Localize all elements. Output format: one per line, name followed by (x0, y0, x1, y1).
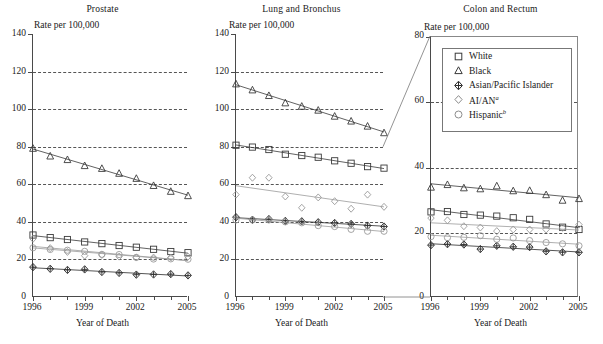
x-axis-tick-minor (546, 296, 547, 300)
y-axis-tick (426, 37, 431, 38)
gridline (33, 147, 187, 148)
y-axis-tick-label: 0 (0, 291, 26, 301)
diamond-cross-marker-icon (64, 266, 71, 273)
diamond-marker-icon (299, 204, 305, 211)
legend-label: AI/ANa (469, 94, 499, 106)
y-axis-tick-label: 60 (0, 178, 26, 188)
diamond-marker-icon (461, 223, 467, 230)
gridline (33, 259, 187, 260)
triangle-marker-icon (428, 184, 435, 191)
diamond-marker-icon (364, 191, 370, 198)
trend-line (33, 149, 188, 195)
diamond-cross-marker-icon (510, 243, 517, 250)
y-axis-tick (28, 147, 33, 148)
diamond-marker-icon (266, 174, 272, 181)
x-axis-tick-label: 1996 (414, 302, 446, 312)
y-axis-tick-label: 120 (201, 66, 229, 76)
y-axis-tick (28, 259, 33, 260)
square-marker-icon (150, 246, 156, 252)
legend-item-black[interactable]: Black (443, 64, 571, 79)
diamond-cross-marker-icon (381, 223, 388, 230)
circle-marker-icon (64, 247, 70, 253)
diamond-marker-icon (99, 251, 105, 258)
triangle-marker-icon (64, 156, 71, 163)
square-open-marker-icon (451, 49, 466, 63)
diamond-cross-marker-icon (526, 243, 533, 250)
triangle-marker-icon (559, 197, 566, 204)
x-axis-title: Year of Death (205, 318, 398, 328)
x-axis-tick-minor (318, 296, 319, 300)
x-axis-tick-label: 1996 (16, 302, 48, 312)
diamond-cross-marker-icon (460, 241, 467, 248)
legend-item-white[interactable]: White (443, 49, 571, 64)
y-axis-tick (28, 222, 33, 223)
x-axis-tick-label: 2002 (513, 302, 545, 312)
x-axis-tick-minor (351, 296, 352, 300)
square-marker-icon (543, 221, 549, 227)
x-axis-tick-minor (154, 296, 155, 300)
trend-line (236, 186, 384, 207)
legend-item-asian-pacific-islander[interactable]: Asian/Pacific Islander (443, 78, 571, 93)
panel-title: Prostate (0, 4, 205, 14)
legend-item-ai-an[interactable]: AI/ANa (443, 93, 571, 108)
diamond-marker-icon (249, 174, 255, 181)
triangle-marker-icon (81, 162, 88, 169)
square-marker-icon (64, 236, 70, 242)
x-axis-title: Year of Death (398, 318, 603, 328)
diamond-marker-icon (348, 205, 354, 212)
trend-line (431, 184, 579, 198)
triangle-marker-icon (510, 187, 517, 194)
legend-label: Asian/Pacific Islander (469, 80, 553, 90)
circle-marker-icon (559, 241, 565, 247)
triangle-marker-icon (116, 170, 123, 177)
series-black (428, 181, 583, 203)
legend-item-hispanic[interactable]: Hispanicb (443, 107, 571, 122)
circle-marker-icon (381, 228, 387, 234)
series-hispanic (233, 217, 387, 234)
y-axis-tick (231, 109, 236, 110)
triangle-marker-icon (233, 80, 240, 87)
triangle-marker-icon (364, 123, 371, 130)
diamond-marker-icon (559, 224, 565, 231)
x-axis-tick-major (136, 296, 137, 301)
legend: White Black Asian/Pacific Islander (442, 48, 572, 132)
diamond-cross-marker-icon (364, 222, 371, 229)
square-marker-icon (510, 215, 516, 221)
x-axis-tick-major (384, 296, 385, 301)
rate-axis-label: Rate per 100,000 (229, 20, 294, 30)
square-marker-icon (99, 241, 105, 247)
gridline (236, 184, 383, 185)
x-axis-tick-minor (464, 296, 465, 300)
circle-marker-icon (576, 243, 582, 249)
circle-marker-icon (30, 245, 36, 251)
square-marker-icon (364, 164, 370, 170)
triangle-marker-icon (576, 195, 583, 202)
panel-title: Colon and Rectum (398, 4, 603, 14)
y-axis-tick (231, 259, 236, 260)
diamond-marker-icon (444, 217, 450, 224)
triangle-marker-icon (133, 175, 140, 182)
x-axis-tick-minor (252, 296, 253, 300)
triangle-marker-icon (331, 113, 338, 120)
diamond-cross-marker-icon (451, 78, 466, 92)
square-marker-icon (332, 158, 338, 164)
circle-marker-icon (428, 234, 434, 240)
triangle-marker-icon (30, 145, 37, 152)
triangle-marker-icon (47, 152, 54, 159)
y-axis-tick (28, 34, 33, 35)
diamond-marker-icon (477, 224, 483, 231)
circle-marker-icon (510, 235, 516, 241)
diamond-marker-icon (428, 215, 434, 222)
x-axis-tick-minor (497, 296, 498, 300)
x-axis-tick-major (480, 296, 481, 301)
gridline (33, 109, 187, 110)
circle-marker-icon (527, 237, 533, 243)
x-axis-tick-major (530, 296, 531, 301)
diamond-cross-marker-icon (133, 271, 140, 278)
diamond-cross-marker-icon (576, 249, 583, 256)
x-axis-tick-minor (447, 296, 448, 300)
y-axis-tick-label: 20 (0, 253, 26, 263)
trend-line (236, 145, 384, 169)
y-axis-tick (28, 72, 33, 73)
panel-colon-and-rectum: Colon and Rectum Rate per 100,000 Year o… (398, 0, 603, 344)
